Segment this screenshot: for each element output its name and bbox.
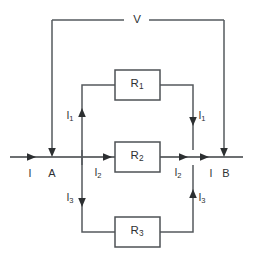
arrow-i1-right-down — [189, 117, 197, 126]
current-label-i-out: I — [210, 168, 213, 179]
arrow-i3-left-down — [78, 198, 86, 207]
arrow-into-node-b — [220, 148, 228, 157]
arrow-input-current — [27, 153, 36, 161]
circuit-schematic-canvas — [0, 0, 253, 260]
current-label-i2-right: I2 — [174, 167, 181, 179]
arrow-i2-right — [179, 153, 188, 161]
circuit-diagram: V R1 R2 R3 A B I I I1 I1 I2 I2 I3 I3 — [0, 0, 253, 260]
current-label-i1-right: I1 — [198, 110, 205, 122]
resistor-label-r3: R3 — [130, 225, 143, 238]
source-label-v: V — [133, 14, 141, 26]
current-label-i-in: I — [29, 168, 32, 179]
arrow-output-current — [200, 153, 209, 161]
arrow-i1-left-up — [78, 108, 86, 117]
current-label-i3-left: I3 — [66, 192, 73, 204]
branch-r1-left-wire — [82, 85, 115, 165]
current-label-i2-left: I2 — [94, 167, 101, 179]
resistor-label-r2: R2 — [130, 150, 143, 163]
current-label-i1-left: I1 — [66, 110, 73, 122]
branch-r3-left-wire — [82, 150, 115, 232]
current-label-i3-right: I3 — [198, 192, 205, 204]
arrow-into-node-a — [48, 148, 56, 157]
resistor-label-r1: R1 — [130, 78, 143, 91]
arrow-i2-left — [103, 153, 112, 161]
arrow-i3-right-up — [189, 189, 197, 198]
node-label-b: B — [222, 168, 229, 179]
node-label-a: A — [48, 168, 55, 179]
branch-r1-right-wire — [160, 85, 193, 150]
